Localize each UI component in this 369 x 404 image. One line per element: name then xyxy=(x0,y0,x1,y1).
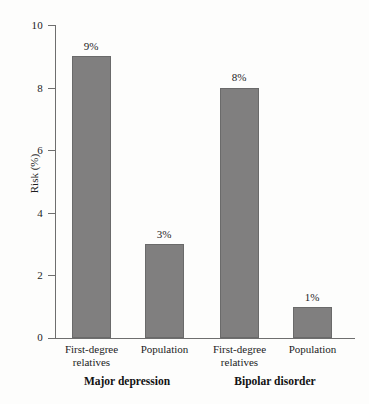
y-tick-mark-6 xyxy=(48,150,56,151)
y-tick-mark-4 xyxy=(48,213,56,214)
bar-value-bp-population: 1% xyxy=(283,292,341,303)
x-label-line1: First-degree xyxy=(213,343,266,355)
x-label-line2: relatives xyxy=(221,356,258,368)
bar-value-md-first-degree: 9% xyxy=(62,41,120,52)
bar-md-population[interactable] xyxy=(145,244,184,338)
bar-bp-first-degree[interactable] xyxy=(220,88,259,338)
y-tick-label-2: 2 xyxy=(19,270,43,281)
y-tick-mark-10 xyxy=(48,25,56,26)
y-tick-label-10: 10 xyxy=(19,20,43,31)
x-label-line1: First-degree xyxy=(65,343,118,355)
y-tick-label-8: 8 xyxy=(19,83,43,94)
group-label-major-depression: Major depression xyxy=(47,375,207,387)
bar-md-first-degree[interactable] xyxy=(72,56,111,338)
x-label-md-population: Population xyxy=(122,343,207,356)
y-tick-label-4: 4 xyxy=(19,208,43,219)
x-axis-line xyxy=(55,338,355,339)
x-label-line2: relatives xyxy=(73,356,110,368)
y-tick-label-6: 6 xyxy=(19,145,43,156)
group-label-bipolar-disorder: Bipolar disorder xyxy=(195,375,355,387)
y-tick-mark-2 xyxy=(48,275,56,276)
y-tick-mark-0 xyxy=(48,338,56,339)
x-label-bp-population: Population xyxy=(270,343,355,356)
y-tick-mark-8 xyxy=(48,88,56,89)
bar-value-md-population: 3% xyxy=(135,229,193,240)
bar-value-bp-first-degree: 8% xyxy=(210,72,268,83)
y-tick-label-0: 0 xyxy=(19,332,43,343)
risk-bar-chart: Risk (%) 10 8 6 4 2 0 9% 3% 8% 1% First-… xyxy=(0,0,369,404)
bar-bp-population[interactable] xyxy=(293,307,332,338)
